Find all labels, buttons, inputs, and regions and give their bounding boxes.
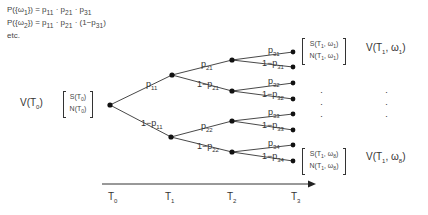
edge-label-p31: p31 <box>268 45 280 57</box>
edge-label-1-p33: 1−p33 <box>262 120 284 132</box>
formula-omega1: P({ω1}) = p11 · p21 · p31 <box>7 5 91 18</box>
edge-label-1-p22: 1−p22 <box>197 141 219 153</box>
edge-label-p11: p11 <box>146 79 157 91</box>
edge-label-1-p31: 1−p31 <box>262 58 284 70</box>
formula-omega2: P({ω2}) = p11 · p21 · (1−p31) <box>7 18 106 31</box>
time-tick-t3: T3 <box>291 191 300 204</box>
node-t1-up <box>169 72 174 77</box>
edge-label-p32: p32 <box>268 76 280 88</box>
root-state-box: S(T0) N(T0) <box>63 91 93 118</box>
edge-label-1-p32: 1−p32 <box>262 89 284 101</box>
leaf-bottom-state-box: S(T1, ω8) N(T1, ω8) <box>302 148 346 175</box>
leaf-top-value-label: V(T1, ω1) <box>366 42 406 55</box>
node-t1-down <box>168 134 173 139</box>
edge-label-1-p34: 1−p34 <box>262 151 284 163</box>
edge-label-p33: p33 <box>268 107 280 119</box>
edge-label-p22: p22 <box>201 121 213 133</box>
time-tick-t0: T0 <box>108 191 117 204</box>
axis-arrow-icon <box>308 181 316 188</box>
edge-label-p34: p34 <box>268 138 280 150</box>
time-tick-t2: T2 <box>227 191 236 204</box>
ellipsis-states: ··· <box>320 86 323 122</box>
ellipsis-values: ··· <box>385 86 388 122</box>
node-t0 <box>107 102 112 107</box>
time-tick-t1: T1 <box>165 191 174 204</box>
root-value-label: V(T0) <box>20 97 43 110</box>
leaf-bottom-value-label: V(T1, ω8) <box>366 151 406 164</box>
edge-label-p21: p21 <box>201 59 213 71</box>
edge-label-1-p21: 1−p21 <box>197 79 219 91</box>
formula-etc: etc. <box>7 31 20 41</box>
leaf-top-state-box: S(T1, ω1) N(T1, ω1) <box>302 38 346 65</box>
edge-label-1-p11: 1−p11 <box>141 118 163 130</box>
